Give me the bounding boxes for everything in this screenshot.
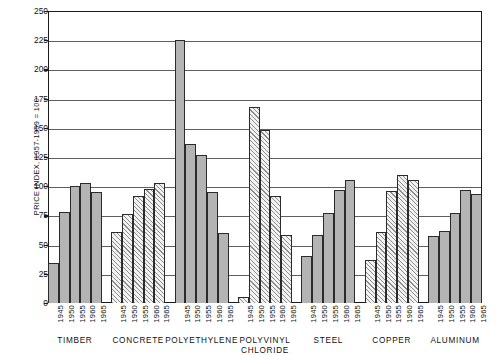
x-tick-label: 1960 bbox=[216, 305, 224, 323]
bar bbox=[175, 40, 186, 303]
x-tick-label: 1950 bbox=[131, 305, 139, 323]
bar bbox=[408, 180, 419, 303]
bar bbox=[196, 155, 207, 303]
y-tick-label: 225 bbox=[8, 36, 48, 44]
group-label: ALUMINUM bbox=[414, 336, 496, 346]
x-tick-label: 1960 bbox=[343, 305, 351, 323]
x-tick-label: 1950 bbox=[258, 305, 266, 323]
x-tick-label: 1960 bbox=[89, 305, 97, 323]
x-tick-label: 1965 bbox=[290, 305, 298, 323]
y-tick-label: 125 bbox=[8, 153, 48, 161]
bar bbox=[428, 236, 439, 303]
x-tick-label: 1945 bbox=[120, 305, 128, 323]
x-tick-label: 1965 bbox=[480, 305, 488, 323]
bar bbox=[376, 232, 387, 303]
x-tick-label: 1955 bbox=[459, 305, 467, 323]
bar bbox=[450, 213, 461, 303]
bar bbox=[122, 214, 133, 303]
bar bbox=[397, 175, 408, 303]
bar bbox=[133, 196, 144, 303]
bar bbox=[59, 212, 70, 303]
bars-layer bbox=[48, 11, 482, 303]
bar bbox=[301, 256, 312, 303]
x-tick-label: 1955 bbox=[142, 305, 150, 323]
x-axis-year-labels: 1945195019551960196519451950195519601965… bbox=[48, 303, 482, 339]
x-tick-label: 1950 bbox=[194, 305, 202, 323]
bar bbox=[80, 183, 91, 303]
x-tick-label: 1950 bbox=[68, 305, 76, 323]
bar bbox=[185, 144, 196, 303]
x-tick-label: 1960 bbox=[279, 305, 287, 323]
x-tick-label: 1950 bbox=[385, 305, 393, 323]
bar bbox=[281, 235, 292, 303]
bar bbox=[207, 192, 218, 303]
x-tick-label: 1965 bbox=[227, 305, 235, 323]
bar bbox=[111, 232, 122, 303]
x-tick-label: 1945 bbox=[247, 305, 255, 323]
bar bbox=[270, 196, 281, 303]
bar bbox=[345, 180, 356, 303]
x-tick-label: 1960 bbox=[153, 305, 161, 323]
bar bbox=[439, 231, 450, 303]
bar bbox=[323, 213, 334, 303]
x-tick-label: 1950 bbox=[321, 305, 329, 323]
y-tick-label: 200 bbox=[8, 65, 48, 73]
y-tick-label: 250 bbox=[8, 7, 48, 15]
bar bbox=[48, 263, 59, 303]
x-tick-label: 1965 bbox=[417, 305, 425, 323]
y-tick-label: 50 bbox=[8, 241, 48, 249]
bar bbox=[260, 130, 271, 303]
y-tick-label: 100 bbox=[8, 182, 48, 190]
bar bbox=[386, 191, 397, 303]
bar bbox=[471, 194, 482, 303]
x-axis-group-labels: TIMBERCONCRETEPOLYETHYLENEPOLYVINYL CHLO… bbox=[48, 336, 482, 355]
x-tick-label: 1945 bbox=[310, 305, 318, 323]
bar bbox=[460, 190, 471, 303]
x-tick-label: 1955 bbox=[79, 305, 87, 323]
bar bbox=[218, 233, 229, 303]
y-tick-label: 150 bbox=[8, 124, 48, 132]
x-tick-label: 1945 bbox=[437, 305, 445, 323]
y-tick-label: 75 bbox=[8, 211, 48, 219]
bar bbox=[312, 235, 323, 303]
x-tick-label: 1955 bbox=[269, 305, 277, 323]
bar bbox=[70, 186, 81, 303]
bar bbox=[249, 107, 260, 303]
x-tick-label: 1950 bbox=[448, 305, 456, 323]
y-axis-ticks: 2502252001751501251007550250 bbox=[0, 0, 48, 355]
x-tick-label: 1965 bbox=[163, 305, 171, 323]
y-tick-label: 0 bbox=[8, 299, 48, 307]
x-tick-label: 1965 bbox=[100, 305, 108, 323]
x-tick-label: 1945 bbox=[374, 305, 382, 323]
x-tick-label: 1945 bbox=[57, 305, 65, 323]
x-tick-label: 1945 bbox=[184, 305, 192, 323]
x-tick-label: 1955 bbox=[205, 305, 213, 323]
y-tick-label: 25 bbox=[8, 270, 48, 278]
bar bbox=[334, 190, 345, 303]
bar bbox=[91, 192, 102, 303]
bar bbox=[365, 260, 376, 303]
bar bbox=[154, 183, 165, 303]
bar-chart: PRICE INDEX, 1957-1959 = 100 25022520017… bbox=[0, 0, 496, 355]
x-tick-label: 1955 bbox=[395, 305, 403, 323]
y-tick-label: 175 bbox=[8, 95, 48, 103]
x-tick-label: 1965 bbox=[354, 305, 362, 323]
x-tick-label: 1960 bbox=[469, 305, 477, 323]
bar bbox=[144, 189, 155, 303]
x-tick-label: 1955 bbox=[332, 305, 340, 323]
x-tick-label: 1960 bbox=[406, 305, 414, 323]
